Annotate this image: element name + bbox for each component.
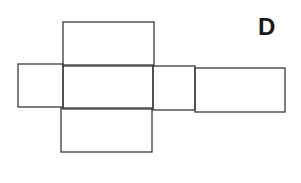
figure-label: D <box>258 15 275 39</box>
bottom-face <box>61 108 152 152</box>
cuboid-net-diagram <box>0 0 301 183</box>
front-face <box>63 65 153 109</box>
top-face <box>63 22 154 66</box>
right-face <box>153 66 195 110</box>
left-face <box>18 64 63 107</box>
back-face <box>195 68 285 112</box>
